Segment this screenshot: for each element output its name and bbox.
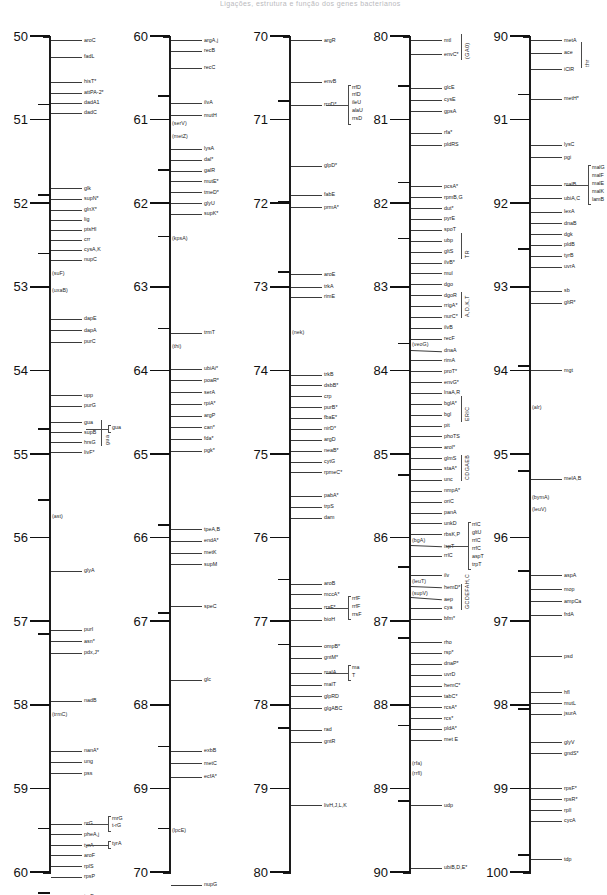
operon-vertical-bar bbox=[461, 455, 462, 481]
gene-label: cysE bbox=[444, 97, 456, 102]
decade-tick-67 bbox=[150, 620, 170, 622]
gene-label: pldB bbox=[564, 242, 575, 247]
decade-label-74: 74 bbox=[242, 364, 268, 377]
gene-label: recF bbox=[444, 336, 455, 341]
decade-tick-56 bbox=[30, 537, 50, 539]
gene-leader-line bbox=[531, 223, 562, 224]
gene-label: dadC bbox=[84, 110, 97, 115]
operon-vertical-label: A,D,K,T bbox=[464, 294, 470, 316]
gene-leader-line bbox=[171, 333, 202, 334]
gene-label: (rrfl) bbox=[412, 771, 422, 776]
gene-label: argD bbox=[324, 437, 336, 442]
decade-tick-80 bbox=[270, 871, 290, 873]
gene-label: dapA bbox=[84, 328, 97, 333]
gene-leader-line bbox=[411, 653, 442, 654]
gene-label: staA* bbox=[444, 466, 457, 471]
gene-label: rpmeC* bbox=[324, 470, 342, 475]
decade-label-89: 89 bbox=[362, 782, 388, 795]
gene-label: metH* bbox=[564, 96, 579, 101]
gene-label: nupC bbox=[84, 257, 97, 262]
gene-leader-line bbox=[531, 53, 562, 54]
operon-vertical-bar bbox=[101, 420, 102, 446]
gene-label: dal* bbox=[204, 157, 213, 162]
gene-label: envG* bbox=[444, 380, 459, 385]
gene-leader-line bbox=[291, 673, 322, 674]
operon-vertical-label: ERIC bbox=[464, 406, 470, 421]
gene-label: ilv bbox=[444, 573, 449, 578]
gene-label: nupG bbox=[204, 882, 217, 887]
gene-label: bfm* bbox=[444, 616, 455, 621]
gene-label: ilvB bbox=[444, 325, 453, 330]
gene-label: ubiA,C bbox=[564, 196, 580, 201]
gene-leader-line bbox=[291, 646, 322, 647]
decade-tick-82 bbox=[390, 202, 410, 204]
gene-label: supM bbox=[204, 562, 217, 567]
gene-label: pheA,j bbox=[84, 832, 99, 837]
decade-label-92: 92 bbox=[482, 197, 508, 210]
operon-connector bbox=[326, 608, 348, 609]
gene-leader-line bbox=[411, 404, 442, 405]
gene-label: gntM* bbox=[324, 655, 338, 660]
decade-tick-86 bbox=[390, 537, 410, 539]
gene-leader-line bbox=[291, 451, 322, 452]
gene-label: (kpsA) bbox=[172, 236, 188, 241]
decade-tick-75 bbox=[270, 453, 290, 455]
operon-connector bbox=[326, 673, 348, 674]
gene-label: rpiA* bbox=[204, 401, 216, 406]
gene-label: ecfA* bbox=[204, 774, 217, 779]
decade-tick-64 bbox=[150, 370, 170, 372]
minor-tick bbox=[518, 365, 530, 367]
gene-leader-line bbox=[51, 442, 82, 443]
gene-leader-line bbox=[411, 54, 442, 55]
operon-gene: T bbox=[352, 672, 359, 680]
gene-leader-line bbox=[411, 740, 442, 741]
gene-leader-line bbox=[531, 212, 562, 213]
decade-label-73: 73 bbox=[242, 280, 268, 293]
gene-label: trpS bbox=[324, 504, 334, 509]
decade-label-68: 68 bbox=[122, 698, 148, 711]
gene-label: rrlC bbox=[444, 553, 453, 558]
gene-label: tpeA,B bbox=[204, 527, 220, 532]
operon-gene: aspT bbox=[472, 553, 484, 561]
gene-leader-line bbox=[171, 192, 202, 193]
decade-label-81: 81 bbox=[362, 113, 388, 126]
minor-tick bbox=[38, 633, 50, 635]
minor-tick bbox=[518, 708, 530, 710]
gene-label: dgoR bbox=[444, 293, 457, 298]
gene-leader-line bbox=[411, 371, 442, 372]
gene-leader-line bbox=[291, 518, 322, 519]
gene-label: bglA* bbox=[444, 401, 457, 406]
gene-label: (rfa) bbox=[412, 761, 422, 766]
gene-leader-line bbox=[411, 545, 442, 547]
gene-label: arol* bbox=[444, 445, 455, 450]
gene-leader-line bbox=[411, 480, 442, 481]
gene-label: glpD* bbox=[324, 163, 337, 168]
decade-tick-90 bbox=[510, 35, 530, 37]
gene-label: glpRD bbox=[324, 694, 339, 699]
operon-vertical-label: TR bbox=[464, 250, 470, 258]
gene-label: upp bbox=[84, 393, 93, 398]
decade-tick-76 bbox=[270, 537, 290, 539]
gene-leader-line bbox=[411, 868, 442, 869]
gene-label: cytG bbox=[324, 459, 335, 464]
gene-label: pyrE bbox=[444, 216, 455, 221]
gene-label: (supV) bbox=[412, 591, 428, 596]
gene-leader-line bbox=[531, 692, 562, 693]
gene-label: exbB bbox=[204, 748, 216, 753]
decade-label-50: 50 bbox=[2, 30, 28, 43]
gene-leader-line bbox=[531, 589, 562, 590]
gene-label: glcE bbox=[444, 85, 455, 90]
operon-vertical-label: (GA0) bbox=[464, 42, 470, 59]
gene-label: (nek) bbox=[292, 330, 304, 335]
gene-label: rplS bbox=[84, 864, 94, 869]
gene-label: (bymA) bbox=[532, 495, 549, 500]
gene-label: bgl bbox=[444, 412, 451, 417]
minor-tick bbox=[158, 612, 170, 614]
gene-leader-line bbox=[171, 529, 202, 530]
gene-leader-line bbox=[531, 859, 562, 860]
gene-leader-line bbox=[51, 230, 82, 231]
minor-tick bbox=[38, 499, 50, 501]
gene-label: supN* bbox=[84, 196, 99, 201]
operon-gene: tyrA bbox=[112, 840, 121, 848]
gene-label: crr bbox=[84, 237, 90, 242]
